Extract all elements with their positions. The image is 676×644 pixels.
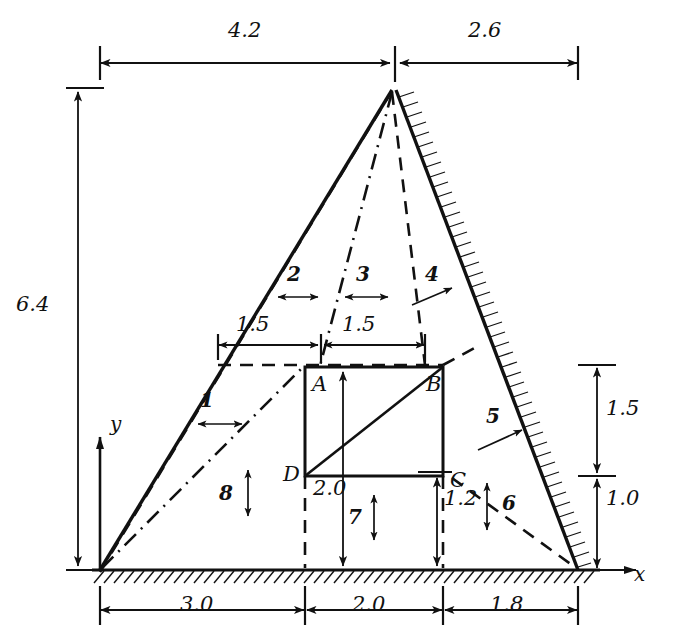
- dimension-label-bottom-2-0: 2.0: [352, 592, 385, 616]
- ground-hatch: [92, 570, 600, 583]
- axis-label-y: y: [110, 412, 121, 436]
- dimension-label-inner-2-0: 2.0: [313, 476, 346, 500]
- node-label-A: A: [312, 372, 327, 396]
- dimension-label-left-6-4: 6.4: [16, 292, 49, 316]
- dimension-inner-horizontal: [218, 334, 425, 362]
- element-label-3: 3: [356, 262, 370, 286]
- diagram-svg: [0, 0, 676, 644]
- node-label-D: D: [283, 462, 300, 486]
- diagram-canvas: 4.2 2.6 6.4 3.0 2.0 1.8 1.5 1.0 1.5 1.5 …: [0, 0, 676, 644]
- dimension-left: [66, 88, 104, 570]
- element-label-4: 4: [425, 262, 439, 286]
- element-label-1: 1: [200, 388, 214, 412]
- node-label-B: B: [426, 372, 441, 396]
- dimension-label-inner-1-5-right: 1.5: [342, 312, 375, 336]
- dimension-label-bottom-3-0: 3.0: [180, 592, 213, 616]
- dimension-label-top-4-2: 4.2: [228, 18, 261, 42]
- element-label-2: 2: [287, 262, 301, 286]
- dimension-label-inner-1-5-left: 1.5: [236, 312, 269, 336]
- element-label-6: 6: [502, 491, 516, 515]
- dimension-top: [100, 46, 578, 82]
- element-label-5: 5: [486, 404, 500, 428]
- dimension-label-right-1-0: 1.0: [606, 486, 639, 510]
- axis-label-x: x: [634, 562, 645, 586]
- coordinate-axes: [100, 437, 636, 570]
- dimension-label-right-1-5: 1.5: [606, 396, 639, 420]
- dimension-inner-vertical: [343, 372, 452, 566]
- dimension-label-bottom-1-8: 1.8: [490, 592, 523, 616]
- node-label-C: C: [450, 468, 466, 492]
- element-label-7: 7: [348, 505, 362, 529]
- dimension-label-top-2-6: 2.6: [468, 18, 501, 42]
- element-label-8: 8: [219, 481, 233, 505]
- right-slope-hatch: [399, 92, 591, 567]
